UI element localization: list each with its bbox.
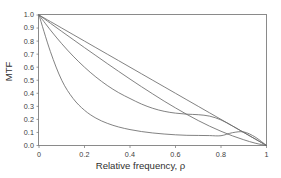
x-axis-title: Relative frequency, ρ xyxy=(0,160,281,171)
y-tick-label: 0.4 xyxy=(12,89,34,98)
x-tick-label: 0.6 xyxy=(164,150,188,159)
x-tick-label: 1 xyxy=(255,150,279,159)
y-tick-label: 0.5 xyxy=(12,76,34,85)
y-tick-label: 0.9 xyxy=(12,23,34,32)
y-tick-label: 0.3 xyxy=(12,102,34,111)
y-tick-label: 0.2 xyxy=(12,115,34,124)
mtf-chart-figure: 0.00.10.20.30.40.50.60.70.80.91.0 00.20.… xyxy=(0,0,281,178)
y-tick-label: 0.8 xyxy=(12,37,34,46)
x-tick-label: 0.8 xyxy=(209,150,233,159)
x-tick-label: 0.4 xyxy=(118,150,142,159)
x-tick-label: 0 xyxy=(27,150,51,159)
x-tick-label: 0.2 xyxy=(73,150,97,159)
y-tick-label: 0.1 xyxy=(12,128,34,137)
y-axis-title: MTF xyxy=(3,48,14,96)
y-tick-label: 0.6 xyxy=(12,63,34,72)
y-tick-label: 1.0 xyxy=(12,10,34,19)
y-tick-label: 0.7 xyxy=(12,50,34,59)
